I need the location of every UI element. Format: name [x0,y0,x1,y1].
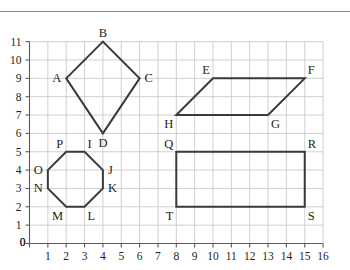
vertex-label-t: T [166,209,174,223]
y-tick-label: 2 [16,201,22,213]
vertex-label-r: R [308,137,317,151]
x-tick-label: 5 [118,250,124,262]
x-tick-label: 10 [207,250,219,262]
y-tick-label: 5 [16,146,22,158]
vertex-label-k: K [108,181,117,195]
vertex-label-d: D [98,136,107,150]
vertex-label-q: Q [164,137,173,151]
x-tick-label: 13 [262,250,274,262]
y-tick-label: 3 [16,182,22,194]
vertex-label-h: H [164,117,173,131]
x-tick-label: 12 [244,250,256,262]
plot-svg: 012345678910111213141516 01234567891011 … [0,0,350,270]
y-tick-label: 10 [10,54,22,66]
x-tick-label: 15 [299,250,311,262]
x-tick-label: 1 [45,250,51,262]
x-tick-label: 9 [192,250,198,262]
octagon-ijklmnop [48,152,103,207]
vertex-labels-layer: ABCDIJKLMNOPEFGHQRST [34,26,317,223]
x-tick-label: 3 [82,250,88,262]
y-tick-label: 1 [16,219,22,231]
vertex-label-p: P [56,137,63,151]
x-tick-label: 14 [281,250,293,262]
vertex-label-f: F [308,63,315,77]
y-tick-label: 7 [16,109,22,121]
vertex-label-a: A [52,71,61,85]
x-tick-label: 7 [155,250,161,262]
x-tick-label: 8 [173,250,179,262]
x-tick-label: 11 [226,250,237,262]
y-tick-label: 0 [20,236,26,248]
x-tick-label: 2 [63,250,69,262]
rectangle-qrst [176,152,304,207]
vertex-label-n: N [34,181,43,195]
x-tick-label: 16 [317,250,329,262]
y-tick-label: 9 [16,72,22,84]
x-tick-label: 6 [137,250,143,262]
vertex-label-m: M [52,209,63,223]
tick-marks-layer [26,42,324,248]
vertex-label-g: G [271,117,280,131]
vertex-label-c: C [145,71,153,85]
vertex-label-i: I [88,137,92,151]
vertex-label-b: B [99,26,107,40]
vertex-label-j: J [108,163,113,177]
coordinate-grid-figure: 012345678910111213141516 01234567891011 … [0,0,350,270]
y-tick-label: 6 [16,127,22,139]
vertex-label-s: S [308,209,315,223]
vertex-label-l: L [88,209,96,223]
vertex-label-o: O [34,163,43,177]
y-tick-label: 4 [16,164,22,176]
y-tick-label: 11 [10,36,21,48]
y-axis-tick-labels: 01234567891011 [10,36,26,248]
vertex-label-e: E [202,63,210,77]
y-tick-label: 8 [16,91,22,103]
x-tick-label: 4 [100,250,106,262]
